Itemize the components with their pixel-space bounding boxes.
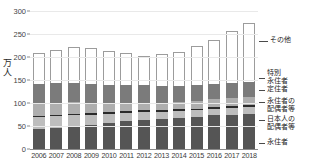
y-axis-tick-label: 250 [13,30,26,39]
gridline [30,34,258,35]
legend-item-label: 定住者 [267,86,288,94]
bar-segment [50,103,62,115]
bar-segment [50,83,62,103]
bar-2010[interactable] [103,51,115,149]
bar-segment [68,126,80,149]
legend-leader-line [259,78,265,79]
bar-segment [85,115,97,125]
x-axis-labels: 2006200720082009201020112012201320142015… [30,151,258,165]
legend-leader-line [259,143,265,144]
legend-item-永住者の配偶者等[interactable]: 永住者の配偶者等 [267,98,295,113]
y-axis-title-char-2: 人 [1,68,14,78]
bar-segment [243,97,255,106]
bar-2018[interactable] [243,23,255,149]
bar-2008[interactable] [68,47,80,149]
bar-2007[interactable] [50,50,62,149]
bar-segment [226,115,238,150]
bar-segment [50,128,62,149]
x-axis-label-2018: 2018 [240,151,258,160]
y-axis-title-char-1: 万 [1,58,14,68]
bar-segment [33,104,45,116]
bar-segment [243,114,255,149]
y-axis-tick-label: 0 [22,145,26,154]
bar-segment [85,103,97,113]
x-axis-label-2007: 2007 [48,151,66,160]
bar-segment [138,85,150,102]
x-axis-label-2011: 2011 [118,151,136,160]
bar-segment [208,40,220,84]
x-axis-label-2013: 2013 [153,151,171,160]
plot-area [30,11,258,149]
legend: その他特別永住者定住者永住者の配偶者等日本人の配偶者等永住者 [259,0,311,167]
y-axis-tick-label: 100 [13,99,26,108]
legend-item-その他[interactable]: その他 [270,37,291,45]
bar-2013[interactable] [156,54,168,149]
legend-item-定住者[interactable]: 定住者 [267,86,288,94]
legend-item-label: その他 [270,37,291,45]
legend-leader-line [259,120,265,121]
x-axis-label-2009: 2009 [83,151,101,160]
gridline [30,11,258,12]
bar-2017[interactable] [226,31,238,149]
bar-segment [68,47,80,83]
legend-item-label: 配偶者等 [267,124,295,132]
gridline [30,80,258,81]
bar-segment [50,50,62,83]
x-axis-label-2008: 2008 [65,151,83,160]
stacked-bar-chart: 万 人 050100150200250300 20062007200820092… [0,0,311,167]
bar-segment [33,84,45,104]
y-axis-tick-label: 150 [13,76,26,85]
bar-2009[interactable] [85,48,97,149]
bar-segment [156,86,168,103]
bar-segment [208,84,220,100]
bar-segment [33,129,45,149]
y-axis-title: 万 人 [1,58,14,78]
legend-item-特別永住者[interactable]: 特別永住者 [267,70,288,85]
bar-segment [156,119,168,149]
bar-2014[interactable] [173,52,185,149]
bar-segment [68,83,80,102]
x-axis-label-2010: 2010 [100,151,118,160]
x-axis-label-2016: 2016 [205,151,223,160]
bar-segment [33,117,45,129]
bar-segment [85,84,97,103]
bar-2015[interactable] [191,46,203,149]
legend-leader-line [259,90,265,91]
bar-2006[interactable] [33,53,45,149]
legend-item-永住者[interactable]: 永住者 [267,139,288,147]
y-axis-tick-label: 300 [13,7,26,16]
y-axis-tick-label: 200 [13,53,26,62]
bar-2011[interactable] [120,53,132,149]
bar-segment [103,103,115,112]
bar-segment [120,113,132,122]
bar-segment [243,82,255,97]
legend-leader-line [259,41,268,42]
legend-item-label: 永住者 [267,139,288,147]
bar-segment [138,120,150,149]
x-axis-label-2012: 2012 [135,151,153,160]
gridline [30,126,258,127]
legend-item-日本人の配偶者等[interactable]: 日本人の配偶者等 [267,116,295,131]
bar-segment [120,85,132,103]
x-axis-label-2014: 2014 [170,151,188,160]
bar-segment [191,117,203,149]
bar-segment [103,114,115,123]
x-axis-label-2006: 2006 [30,151,48,160]
y-axis-tick-label: 50 [18,122,26,131]
bar-segment [103,85,115,103]
x-axis-label-2017: 2017 [223,151,241,160]
legend-item-label: 配偶者等 [267,106,295,114]
bar-segment [68,115,80,126]
bar-segment [173,118,185,149]
gridline [30,103,258,104]
bar-segment [173,86,185,103]
bar-segment [191,85,203,101]
bar-2016[interactable] [208,40,220,149]
bar-segment [226,83,238,98]
bar-segment [156,112,168,119]
bar-segment [208,115,220,149]
x-axis-line [30,149,258,150]
bar-segment [138,112,150,120]
bar-segment [85,48,97,84]
bar-segment [85,125,97,149]
